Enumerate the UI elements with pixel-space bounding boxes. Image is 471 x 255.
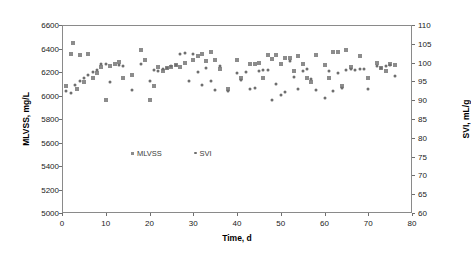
data-point-mlvss (121, 76, 125, 80)
y-tick-right-110-mark (412, 25, 415, 26)
y-tick-left-5200-mark (59, 190, 62, 191)
data-point-mlvss (69, 52, 73, 56)
data-point-svi (336, 71, 339, 74)
data-point-svi (345, 69, 348, 72)
data-point-svi (152, 69, 155, 72)
legend-label-svi: SVI (200, 149, 212, 158)
y-tick-right-95: 95 (418, 77, 427, 86)
data-point-mlvss (148, 98, 152, 102)
data-point-svi (65, 89, 68, 92)
data-point-svi (354, 69, 357, 72)
y-tick-right-110: 110 (418, 21, 431, 30)
data-point-mlvss (327, 76, 331, 80)
data-point-svi (367, 87, 370, 90)
data-point-svi (166, 66, 169, 69)
data-point-svi (301, 69, 304, 72)
x-tick-10: 10 (101, 219, 110, 228)
x-tick-20: 20 (145, 219, 154, 228)
y-tick-left-6400-mark (59, 49, 62, 50)
data-point-mlvss (191, 58, 195, 62)
x-tick-60-mark (325, 213, 326, 216)
y-tick-left-6600-mark (59, 25, 62, 26)
data-point-svi (139, 63, 142, 66)
y-tick-right-65-mark (412, 194, 415, 195)
data-point-svi (201, 84, 204, 87)
data-point-svi (310, 78, 313, 81)
data-point-svi (314, 88, 317, 91)
data-point-svi (380, 67, 383, 70)
data-point-mlvss (183, 61, 187, 65)
data-point-mlvss (336, 50, 340, 54)
data-point-svi (227, 89, 230, 92)
data-point-svi (249, 87, 252, 90)
data-point-svi (306, 68, 309, 71)
x-tick-70: 70 (364, 219, 373, 228)
dot-marker-icon (194, 152, 197, 155)
data-point-svi (196, 71, 199, 74)
data-point-mlvss (274, 53, 278, 57)
data-point-mlvss (178, 65, 182, 69)
data-point-svi (104, 63, 107, 66)
x-tick-80-mark (412, 213, 413, 216)
y-tick-right-105-mark (412, 44, 415, 45)
legend-entry-mlvss: MLVSS (131, 148, 162, 158)
y-tick-right-75: 75 (418, 152, 427, 161)
y-tick-left-6200-mark (59, 72, 62, 73)
data-point-svi (148, 80, 151, 83)
data-point-svi (389, 64, 392, 67)
y-tick-left-6400: 6400 (34, 44, 59, 53)
data-point-mlvss (296, 54, 300, 58)
data-point-svi (288, 60, 291, 63)
x-tick-0-mark (62, 213, 63, 216)
data-point-svi (209, 79, 212, 82)
data-point-mlvss (358, 54, 362, 58)
y-tick-left-5800-mark (59, 119, 62, 120)
data-point-svi (117, 64, 120, 67)
data-point-mlvss (261, 76, 265, 80)
data-point-svi (257, 69, 260, 72)
data-point-svi (82, 77, 85, 80)
data-point-mlvss (78, 53, 82, 57)
x-tick-70-mark (368, 213, 369, 216)
legend-entry-svi: SVI (194, 148, 212, 158)
data-point-mlvss (139, 48, 143, 52)
data-point-svi (253, 87, 256, 90)
data-point-mlvss (82, 80, 86, 84)
data-point-svi (244, 71, 247, 74)
data-point-svi (349, 68, 352, 71)
x-tick-30-mark (193, 213, 194, 216)
y-tick-right-65: 65 (418, 190, 427, 199)
y-tick-left-5400: 5400 (34, 162, 59, 171)
y-tick-right-70: 70 (418, 171, 427, 180)
x-tick-60: 60 (320, 219, 329, 228)
data-point-svi (87, 73, 90, 76)
legend-label-mlvss: MLVSS (137, 149, 162, 158)
y-tick-right-60: 60 (418, 209, 427, 218)
y-tick-left-6600: 6600 (34, 21, 59, 30)
data-point-svi (292, 75, 295, 78)
data-point-svi (358, 67, 361, 70)
data-point-svi (170, 65, 173, 68)
data-point-svi (96, 69, 99, 72)
data-point-mlvss (143, 58, 147, 62)
data-point-svi (262, 69, 265, 72)
x-tick-0: 0 (60, 219, 64, 228)
data-point-mlvss (204, 59, 208, 63)
data-point-mlvss (393, 63, 397, 67)
y-tick-right-85: 85 (418, 115, 427, 124)
data-point-mlvss (130, 73, 134, 77)
y-tick-left-5400-mark (59, 166, 62, 167)
data-point-mlvss (152, 84, 156, 88)
data-point-svi (341, 86, 344, 89)
y-tick-left-5600: 5600 (34, 138, 59, 147)
data-point-svi (284, 90, 287, 93)
x-axis-title: Time, d (197, 233, 277, 243)
x-tick-30: 30 (189, 219, 198, 228)
data-point-svi (376, 65, 379, 68)
data-point-mlvss (91, 76, 95, 80)
y-tick-right-85-mark (412, 119, 415, 120)
y-tick-left-5000: 5000 (34, 209, 59, 218)
data-point-svi (100, 63, 103, 66)
x-tick-20-mark (150, 213, 151, 216)
